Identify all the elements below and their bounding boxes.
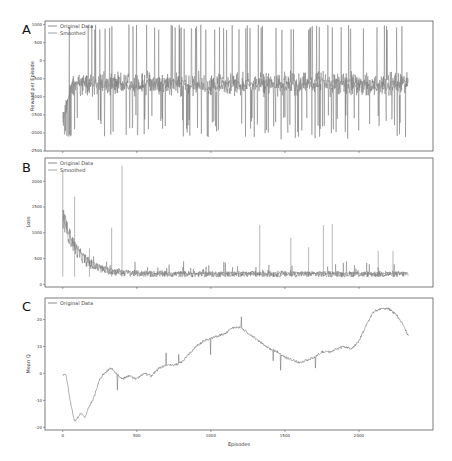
y-tick-label-c: 20 xyxy=(37,317,43,322)
series-original-data-c xyxy=(63,308,409,422)
y-tick-label-b: 0 xyxy=(39,282,42,287)
series-original-data-a xyxy=(63,25,408,140)
y-tick-label-a: -2500 xyxy=(30,148,42,153)
legend-label-smoothed-a: Smoothed xyxy=(60,30,86,36)
panel-letter-b: B xyxy=(22,160,31,175)
x-tick-label: 0 xyxy=(61,433,64,438)
legend-label-original-c: Original Data xyxy=(60,300,93,307)
y-axis-label-c: Mean Q xyxy=(25,354,31,373)
y-tick-label-a: 1000 xyxy=(32,22,43,27)
x-tick-label: 500 xyxy=(133,433,141,438)
y-tick-label-b: 1500 xyxy=(32,204,43,209)
plot-area-a xyxy=(63,25,408,140)
y-tick-label-a: 0 xyxy=(39,58,42,63)
legend-a: Original Data Smoothed xyxy=(48,23,93,36)
y-tick-label-a: -2000 xyxy=(30,130,42,135)
y-tick-label-c: -20 xyxy=(35,425,42,430)
y-tick-label-c: -10 xyxy=(35,398,42,403)
legend-label-original-a: Original Data xyxy=(60,23,93,30)
y-axis-label-a: Reward per Episode xyxy=(29,61,36,111)
y-tick-label-a: -1000 xyxy=(30,94,42,99)
plot-area-b xyxy=(63,166,408,277)
y-tick-label-b: 1000 xyxy=(32,230,43,235)
panel-letter-a: A xyxy=(22,22,31,37)
series-original-data-b xyxy=(63,210,408,278)
y-tick-label-a: -500 xyxy=(33,76,43,81)
y-tick-label-a: -1500 xyxy=(30,112,42,117)
y-axis-label-b: Loss xyxy=(25,216,31,227)
x-axis-label: Episodes xyxy=(228,441,251,448)
x-tick-label: 2000 xyxy=(354,433,365,438)
panel-c: C Mean Q -20-10010200500100015002000 Ori… xyxy=(22,298,433,448)
y-tick-label-a: 500 xyxy=(34,40,42,45)
x-tick-label: 1000 xyxy=(206,433,217,438)
y-tick-label-c: 10 xyxy=(37,344,43,349)
panel-a: A Reward per Episode -2500-2000-1500-100… xyxy=(22,21,433,153)
panel-letter-c: C xyxy=(22,299,31,314)
y-tick-label-b: 500 xyxy=(34,256,42,261)
series-smoothed-b xyxy=(63,217,408,274)
legend-c: Original Data xyxy=(48,300,93,307)
y-tick-label-b: 2000 xyxy=(32,179,43,184)
y-tick-label-c: 0 xyxy=(39,371,42,376)
legend-label-smoothed-b: Smoothed xyxy=(60,167,86,173)
x-tick-label: 1500 xyxy=(280,433,291,438)
panel-b: B Loss 0500100015002000 Original Data Sm… xyxy=(22,158,433,289)
plot-area-c xyxy=(63,308,409,422)
legend-label-original-b: Original Data xyxy=(60,160,93,167)
frame-c xyxy=(45,298,433,430)
legend-b: Original Data Smoothed xyxy=(48,160,93,173)
figure: A Reward per Episode -2500-2000-1500-100… xyxy=(0,0,452,461)
